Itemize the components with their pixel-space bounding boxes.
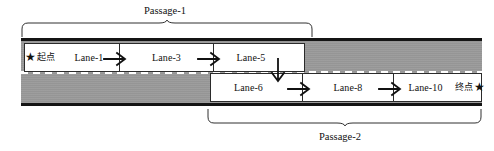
star-icon-start: ★	[25, 52, 36, 62]
end-point-marker: ★ 终点	[455, 82, 485, 92]
lane-label-lane-3: Lane-3	[152, 52, 181, 63]
lane-strip-top: Lane-1 Lane-3 Lane-5	[24, 43, 305, 72]
road-edge-bottom	[21, 103, 482, 106]
lane-cell-lane-3[interactable]: Lane-3	[119, 44, 213, 71]
lane-label-lane-8: Lane-8	[334, 82, 363, 93]
star-icon-end: ★	[474, 82, 485, 92]
lane-label-lane-6: Lane-6	[234, 82, 263, 93]
passage-1-label: Passage-1	[0, 5, 330, 16]
end-point-label: 终点	[455, 83, 473, 92]
lane-strip-bottom: Lane-6 Lane-8 Lane-10	[210, 73, 482, 102]
start-point-marker: ★ 起点	[25, 52, 55, 62]
lane-cell-lane-6[interactable]: Lane-6	[211, 74, 302, 101]
start-point-label: 起点	[37, 53, 55, 62]
diagram-canvas: Passage-1 Lane-1 Lane-3 Lane-5 Lane-6 La…	[0, 0, 494, 151]
lane-cell-lane-5[interactable]: Lane-5	[213, 44, 306, 71]
passage-2-brace	[207, 108, 482, 126]
lane-label-lane-10: Lane-10	[408, 82, 442, 93]
lane-cell-lane-8[interactable]: Lane-8	[302, 74, 393, 101]
road-edge-top	[21, 38, 482, 41]
passage-2-label: Passage-2	[190, 131, 490, 142]
lane-label-lane-5: Lane-5	[237, 52, 266, 63]
passage-1-brace	[21, 20, 313, 38]
lane-label-lane-1: Lane-1	[75, 52, 104, 63]
